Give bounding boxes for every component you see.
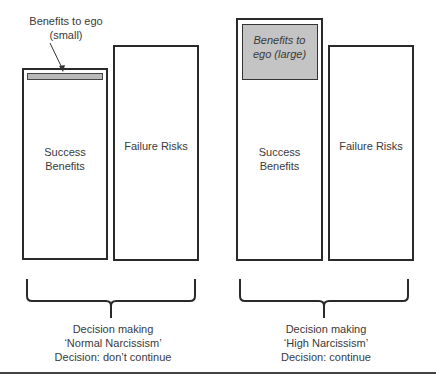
arrow-icon (50, 43, 65, 72)
right-brace (240, 279, 408, 318)
left-caption-line-1: Decision making (23, 322, 203, 336)
right-caption-line-3: Decision: continue (236, 350, 416, 364)
left-caption: Decision making ‘Normal Narcissism’ Deci… (23, 322, 203, 364)
left-caption-line-3: Decision: don’t continue (23, 350, 203, 364)
right-caption-line-1: Decision making (236, 322, 416, 336)
right-caption-line-2: ‘High Narcissism’ (236, 336, 416, 350)
left-brace (27, 279, 195, 318)
bottom-divider (0, 372, 436, 374)
left-caption-line-2: ‘Normal Narcissism’ (23, 336, 203, 350)
right-caption: Decision making ‘High Narcissism’ Decisi… (236, 322, 416, 364)
